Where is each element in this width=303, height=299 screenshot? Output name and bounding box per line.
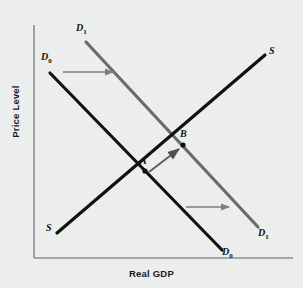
demand0-bottom-label-sub: 0: [229, 252, 233, 260]
demand0-bottom-label: D0: [222, 246, 233, 260]
chart-canvas: [0, 0, 303, 299]
supply-curve-s: [57, 55, 265, 233]
y-axis-title: Price Level: [10, 64, 21, 160]
equilibrium-point-a-label: A: [140, 155, 147, 166]
chart-figure: D0 D1 D1 D0 S S A B Real GDP Price Level: [0, 0, 303, 299]
demand1-top-label-sub: 1: [83, 28, 87, 36]
x-axis-title: Real GDP: [0, 268, 303, 279]
equilibrium-point-b-marker: [180, 142, 185, 147]
demand1-bottom-label: D1: [258, 227, 269, 241]
demand1-bottom-label-sub: 1: [265, 233, 269, 241]
demand1-top-label: D1: [76, 22, 87, 36]
demand0-top-label-sub: 0: [48, 57, 52, 65]
supply-top-label: S: [269, 45, 275, 56]
equilibrium-point-b-label: B: [180, 128, 187, 139]
equilibrium-point-a-marker: [142, 168, 147, 173]
demand0-top-label: D0: [41, 51, 52, 65]
supply-bottom-label: S: [46, 222, 52, 233]
